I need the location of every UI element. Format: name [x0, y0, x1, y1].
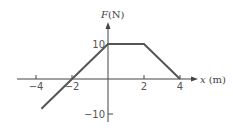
y-axis-title: F(N) [100, 9, 125, 20]
x-axis-arrow-icon [191, 77, 198, 82]
y-axis-arrow-icon [106, 22, 111, 29]
labels: F(N) x(m) [100, 9, 226, 85]
x-axis-var: x [200, 74, 206, 85]
x-tick-label: 2 [141, 81, 147, 92]
x-axis-title: x(m) [200, 74, 226, 85]
series [41, 44, 180, 109]
y-axis-unit: (N) [108, 9, 125, 20]
x-axis-unit: (m) [209, 74, 226, 85]
force-position-chart: −4−22410−10 F(N) x(m) [0, 0, 233, 130]
x-tick-label: −4 [29, 81, 44, 92]
force-line [41, 44, 180, 109]
y-tick-label: −10 [84, 109, 105, 120]
x-tick-label: 4 [177, 81, 183, 92]
